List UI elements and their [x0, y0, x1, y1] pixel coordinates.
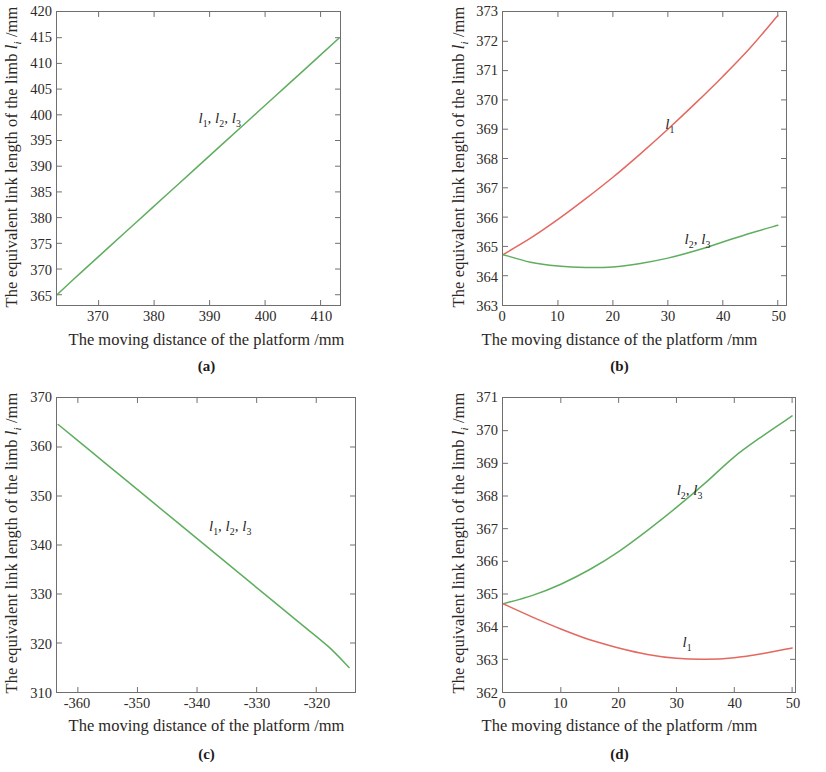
x-tick-label: 20 — [611, 695, 626, 712]
curve-label: l1, l2, l3 — [209, 518, 251, 537]
y-tick-label: 330 — [8, 586, 52, 603]
y-tick-label: 365 — [8, 287, 52, 304]
y-tick-label: 365 — [454, 586, 498, 603]
panel-d-caption: (d) — [413, 746, 826, 763]
y-tick-label: 375 — [8, 235, 52, 252]
x-tick-label: 30 — [669, 695, 684, 712]
y-tick-label: 363 — [454, 652, 498, 669]
y-tick-label: 365 — [454, 239, 498, 256]
panel-a: The equivalent link length of the limb l… — [0, 0, 413, 386]
y-tick-label: 320 — [8, 635, 52, 652]
x-tick-label: -320 — [304, 695, 331, 712]
y-tick-label: 372 — [454, 32, 498, 49]
y-tick-label: 373 — [454, 3, 498, 20]
panel-d: The equivalent link length of the limb l… — [413, 386, 826, 772]
series-line — [503, 16, 778, 255]
x-tick-label: 50 — [786, 695, 801, 712]
x-tick-label: 370 — [87, 308, 109, 325]
y-tick-label: 410 — [8, 54, 52, 71]
y-tick-label: 350 — [8, 487, 52, 504]
panel-b-plot-area — [502, 11, 787, 306]
panel-a-plot-area — [56, 11, 341, 306]
curve-label: l1 — [682, 634, 691, 653]
x-tick-label: 380 — [143, 308, 165, 325]
x-tick-label: 400 — [255, 308, 277, 325]
panel-c: The equivalent link length of the limb l… — [0, 386, 413, 772]
y-tick-label: 366 — [454, 209, 498, 226]
y-tick-label: 367 — [454, 520, 498, 537]
x-tick-label: 20 — [605, 308, 620, 325]
y-tick-label: 371 — [454, 389, 498, 406]
y-tick-label: 368 — [454, 487, 498, 504]
y-tick-label: 369 — [454, 121, 498, 138]
x-tick-label: 390 — [199, 308, 221, 325]
curve-label: l1 — [665, 116, 674, 135]
y-tick-label: 364 — [454, 619, 498, 636]
x-tick-label: 0 — [498, 695, 505, 712]
panel-c-plot-area — [56, 397, 356, 693]
y-tick-label: 385 — [8, 184, 52, 201]
y-tick-label: 405 — [8, 80, 52, 97]
series-line — [503, 225, 778, 267]
y-tick-label: 380 — [8, 210, 52, 227]
y-tick-label: 362 — [454, 685, 498, 702]
curve-label: l2, l3 — [685, 231, 711, 250]
x-tick-label: 40 — [728, 695, 743, 712]
curve-label: l2, l3 — [677, 482, 703, 501]
x-tick-label: -360 — [64, 695, 91, 712]
panel-b-caption: (b) — [413, 358, 826, 375]
x-tick-label: -330 — [244, 695, 271, 712]
y-tick-label: 367 — [454, 180, 498, 197]
panel-c-caption: (c) — [0, 746, 413, 763]
panel-d-x-axis-label: The moving distance of the platform /mm — [413, 716, 826, 736]
panel-d-plot-area — [502, 397, 796, 693]
panel-a-caption: (a) — [0, 358, 413, 375]
y-tick-label: 366 — [454, 553, 498, 570]
y-tick-label: 420 — [8, 3, 52, 20]
curve-label: l1, l2, l3 — [199, 110, 241, 129]
panel-a-x-axis-label: The moving distance of the platform /mm — [0, 330, 413, 350]
y-tick-label: 360 — [8, 438, 52, 455]
y-tick-label: 370 — [8, 389, 52, 406]
x-tick-label: -340 — [184, 695, 211, 712]
x-tick-label: -350 — [124, 695, 151, 712]
y-tick-label: 415 — [8, 28, 52, 45]
y-tick-label: 370 — [454, 91, 498, 108]
x-tick-label: 410 — [311, 308, 333, 325]
x-tick-label: 30 — [661, 308, 676, 325]
x-tick-label: 10 — [553, 695, 568, 712]
panel-c-x-axis-label: The moving distance of the platform /mm — [0, 716, 413, 736]
series-line — [503, 604, 792, 660]
x-tick-label: 0 — [498, 308, 505, 325]
figure-grid: The equivalent link length of the limb l… — [0, 0, 826, 772]
x-tick-label: 40 — [716, 308, 731, 325]
y-tick-label: 340 — [8, 537, 52, 554]
panel-a-plot-svg — [57, 12, 340, 305]
panel-b-x-axis-label: The moving distance of the platform /mm — [413, 330, 826, 350]
y-tick-label: 368 — [454, 150, 498, 167]
y-tick-label: 364 — [454, 268, 498, 285]
y-tick-label: 400 — [8, 106, 52, 123]
panel-c-plot-svg — [57, 398, 355, 692]
y-tick-label: 363 — [454, 298, 498, 315]
y-tick-label: 369 — [454, 454, 498, 471]
y-tick-label: 371 — [454, 62, 498, 79]
panel-b: The equivalent link length of the limb l… — [413, 0, 826, 386]
y-tick-label: 370 — [8, 261, 52, 278]
y-tick-label: 395 — [8, 132, 52, 149]
series-line — [503, 416, 792, 604]
panel-d-plot-svg — [503, 398, 795, 692]
panel-b-plot-svg — [503, 12, 786, 305]
series-line — [58, 424, 349, 667]
y-tick-label: 310 — [8, 685, 52, 702]
x-tick-label: 10 — [550, 308, 565, 325]
y-tick-label: 370 — [454, 421, 498, 438]
y-tick-label: 390 — [8, 158, 52, 175]
series-line — [57, 38, 339, 295]
x-tick-label: 50 — [771, 308, 786, 325]
